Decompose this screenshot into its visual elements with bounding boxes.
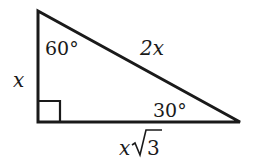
short-leg-label: x bbox=[13, 68, 24, 92]
triangle bbox=[38, 11, 240, 122]
angle-label-right: 30° bbox=[153, 99, 187, 121]
triangle-diagram: 60° 30° 2x x x 3 bbox=[0, 0, 262, 164]
angle-label-top: 60° bbox=[45, 37, 79, 59]
hypotenuse-label: 2x bbox=[139, 36, 164, 60]
long-leg-variable: x bbox=[119, 136, 130, 160]
right-angle-marker bbox=[38, 101, 60, 122]
long-leg-label: x 3 bbox=[119, 130, 162, 160]
long-leg-radicand: 3 bbox=[147, 136, 160, 160]
